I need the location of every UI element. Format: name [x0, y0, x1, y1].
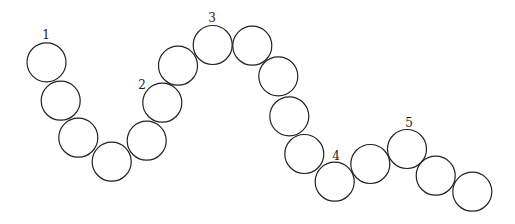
circle-8 — [193, 26, 232, 65]
label-5: 5 — [405, 117, 413, 129]
circle-chain-diagram — [0, 0, 515, 224]
label-3: 3 — [208, 12, 216, 24]
circle-2 — [41, 81, 80, 120]
circle-11 — [270, 97, 309, 136]
label-2: 2 — [138, 79, 146, 91]
circle-1 — [27, 43, 66, 82]
circle-7 — [159, 46, 198, 85]
label-4: 4 — [332, 150, 340, 162]
circle-17 — [453, 172, 492, 211]
circle-4 — [92, 142, 131, 181]
circle-14 — [351, 145, 390, 184]
circle-16 — [416, 156, 455, 195]
label-1: 1 — [42, 29, 50, 41]
circle-12 — [285, 135, 324, 174]
circle-9 — [233, 26, 272, 65]
circle-10 — [259, 57, 298, 96]
circle-3 — [59, 118, 98, 157]
circle-13 — [315, 162, 354, 201]
circle-5 — [127, 121, 166, 160]
circle-6 — [143, 83, 182, 122]
